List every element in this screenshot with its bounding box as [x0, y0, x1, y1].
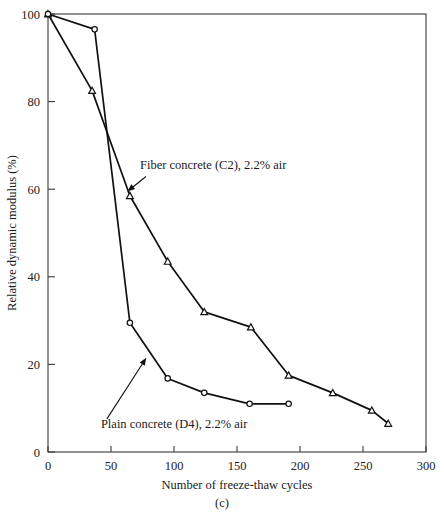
- annotation-leader: [107, 361, 144, 419]
- y-axis-tick-labels: 020406080100: [21, 8, 40, 460]
- data-point-circle: [45, 11, 50, 16]
- y-tick-label: 40: [28, 270, 41, 284]
- series-annotation-label: Fiber concrete (C2), 2.2% air: [140, 158, 287, 172]
- chart-canvas: 050100150200250300 020406080100 Fiber co…: [0, 0, 444, 512]
- x-axis-title: Number of freeze-thaw cycles: [162, 478, 313, 492]
- x-axis-tick-labels: 050100150200250300: [45, 459, 436, 473]
- y-axis-title: Relative dynamic modulus (%): [5, 155, 19, 311]
- x-tick-label: 250: [354, 459, 373, 473]
- data-point-circle: [202, 390, 207, 395]
- x-tick-label: 100: [165, 459, 184, 473]
- data-point-triangle: [329, 389, 336, 395]
- series-line: [48, 14, 289, 404]
- plot-frame: [48, 14, 426, 452]
- figure-caption: (c): [215, 496, 229, 510]
- y-axis-ticks: [48, 14, 55, 452]
- x-tick-label: 300: [417, 459, 436, 473]
- figure-container: 050100150200250300 020406080100 Fiber co…: [0, 0, 444, 512]
- y-tick-label: 20: [28, 358, 41, 372]
- y-tick-label: 0: [34, 446, 40, 460]
- data-point-circle: [286, 401, 291, 406]
- series-annotation-label: Plain concrete (D4), 2.2% air: [101, 417, 248, 431]
- series-line: [48, 14, 388, 424]
- y-tick-label: 100: [21, 8, 40, 22]
- annotation-labels: Fiber concrete (C2), 2.2% airPlain concr…: [101, 158, 287, 430]
- x-axis-ticks: [48, 446, 426, 452]
- annotation-arrowhead: [140, 358, 147, 366]
- data-series-lines: [48, 14, 388, 424]
- x-tick-label: 0: [45, 459, 51, 473]
- data-point-circle: [165, 376, 170, 381]
- y-tick-label: 60: [28, 183, 41, 197]
- data-point-circle: [247, 401, 252, 406]
- data-point-circle: [92, 27, 97, 32]
- x-tick-label: 150: [228, 459, 247, 473]
- data-point-triangle: [368, 407, 375, 413]
- data-point-triangle: [127, 192, 134, 198]
- y-tick-label: 80: [28, 95, 41, 109]
- x-tick-label: 200: [291, 459, 310, 473]
- x-tick-label: 50: [105, 459, 118, 473]
- data-point-triangle: [247, 324, 254, 330]
- annotation-arrowhead: [127, 184, 135, 191]
- data-point-circle: [127, 320, 132, 325]
- data-series-markers: [45, 11, 392, 427]
